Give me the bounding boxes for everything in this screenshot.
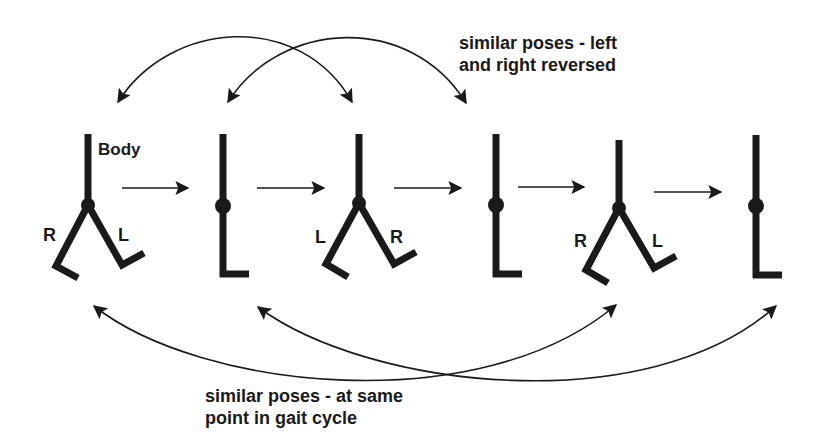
figure3-left-leg-label: L [315,227,326,248]
stick-figure-3 [326,134,416,277]
bottom-caption-line1: similar poses - at same [205,385,403,407]
figure3-right-leg-label: R [390,227,403,248]
bottom-caption: similar poses - at same point in gait cy… [205,385,403,429]
arc-figure1-figure5 [94,305,616,381]
stick-figure-2 [215,134,249,277]
gait-diagram [0,0,814,448]
stick-figure-6 [748,135,782,278]
top-caption-line2: and right reversed [459,54,617,76]
figure1-right-leg-label: R [43,225,56,246]
top-caption-line1: similar poses - left [459,32,617,54]
sequence-arrows [122,187,721,192]
arc-figure2-figure6 [258,306,776,381]
figure1-left-leg-label: L [118,225,129,246]
figure5-right-leg-label: R [574,231,587,252]
body-label: Body [98,140,141,160]
stick-figure-4 [488,134,522,277]
figure5-left-leg-label: L [652,231,663,252]
top-similarity-arcs [118,37,466,103]
bottom-similarity-arcs [94,305,776,381]
bottom-caption-line2: point in gait cycle [205,407,403,429]
stick-figure-5 [586,140,676,283]
top-caption: similar poses - left and right reversed [459,32,617,76]
